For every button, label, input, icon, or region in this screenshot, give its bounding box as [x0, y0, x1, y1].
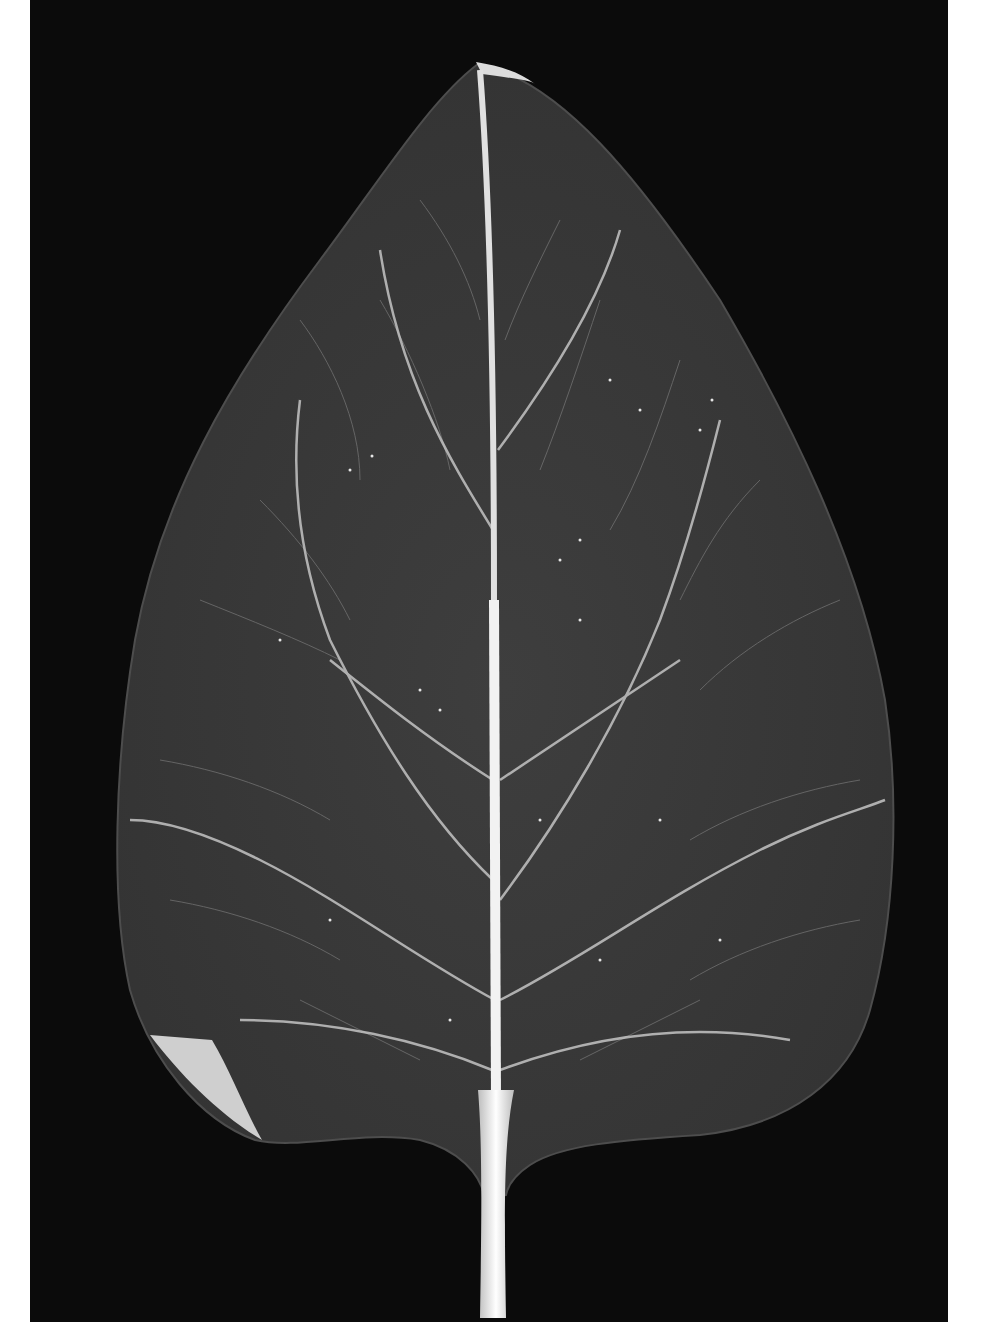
midrib-lower: [494, 600, 496, 1100]
leaf-photograph: [0, 0, 984, 1338]
petiole: [478, 1090, 514, 1318]
leaf-blade: [117, 64, 893, 1195]
